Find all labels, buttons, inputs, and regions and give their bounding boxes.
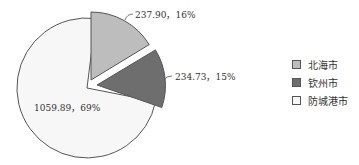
legend-swatch-qinzhou — [292, 78, 301, 87]
legend: 北海市 钦州市 防城港市 — [292, 55, 348, 109]
label-qinzhou: 234.73，15% — [175, 72, 236, 82]
label-beihai: 237.90，16% — [135, 10, 196, 20]
legend-item-beihai: 北海市 — [292, 55, 348, 73]
legend-label: 北海市 — [308, 57, 338, 72]
leader-line-beihai — [125, 14, 133, 20]
legend-swatch-beihai — [292, 60, 301, 69]
legend-item-qinzhou: 钦州市 — [292, 73, 348, 91]
legend-label: 防城港市 — [308, 93, 348, 108]
label-fangchenggang: 1059.89，69% — [34, 103, 101, 113]
legend-item-fangchenggang: 防城港市 — [292, 91, 348, 109]
legend-swatch-fangchenggang — [292, 96, 301, 105]
legend-label: 钦州市 — [308, 75, 338, 90]
